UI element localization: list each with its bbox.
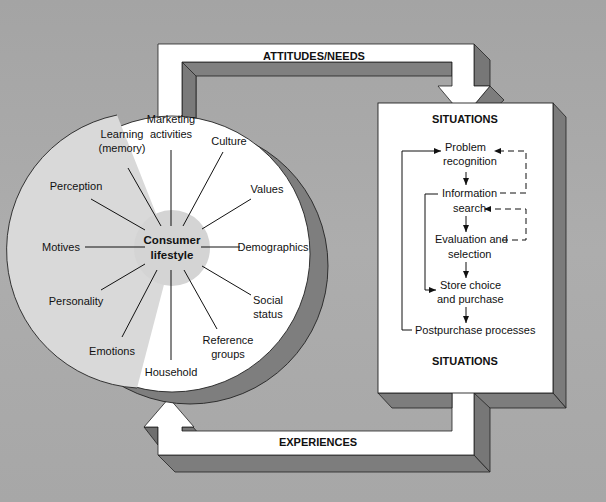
step-eval-l2: selection [448, 248, 491, 260]
step-eval: Evaluation and [435, 233, 508, 245]
step-info: Information [442, 187, 497, 199]
step-store-l2: and purchase [437, 293, 504, 305]
factor-household: Household [145, 366, 198, 378]
attitudes-needs-label: ATTITUDES/NEEDS [263, 50, 365, 62]
factor-culture: Culture [211, 135, 246, 147]
factor-learning-l2: (memory) [98, 142, 145, 154]
factor-reference: Reference [203, 334, 254, 346]
center-label-line1: Consumer [144, 234, 201, 246]
center-label-line2: lifestyle [151, 249, 194, 261]
factor-learning: Learning [101, 128, 144, 140]
factor-emotions: Emotions [89, 345, 135, 357]
situations-title-bottom: SITUATIONS [432, 355, 498, 367]
factor-motives: Motives [42, 241, 80, 253]
factor-social-l2: status [253, 308, 283, 320]
factor-demographics: Demographics [238, 241, 309, 253]
step-info-l2: search [453, 202, 486, 214]
factor-marketing: Marketing [147, 113, 195, 125]
step-postpurchase: Postpurchase processes [415, 324, 536, 336]
factor-marketing-l2: activities [150, 128, 193, 140]
situations-title-top: SITUATIONS [432, 113, 498, 125]
factor-reference-l2: groups [211, 348, 245, 360]
step-problem-l2: recognition [443, 155, 497, 167]
step-problem: Problem [445, 141, 486, 153]
diagram-canvas: ATTITUDES/NEEDS EXPERIENCES [0, 0, 606, 502]
factor-social: Social [253, 294, 283, 306]
factor-perception: Perception [50, 180, 103, 192]
step-store: Store choice [440, 279, 501, 291]
factor-values: Values [251, 183, 284, 195]
factor-personality: Personality [49, 295, 104, 307]
experiences-label: EXPERIENCES [279, 436, 357, 448]
